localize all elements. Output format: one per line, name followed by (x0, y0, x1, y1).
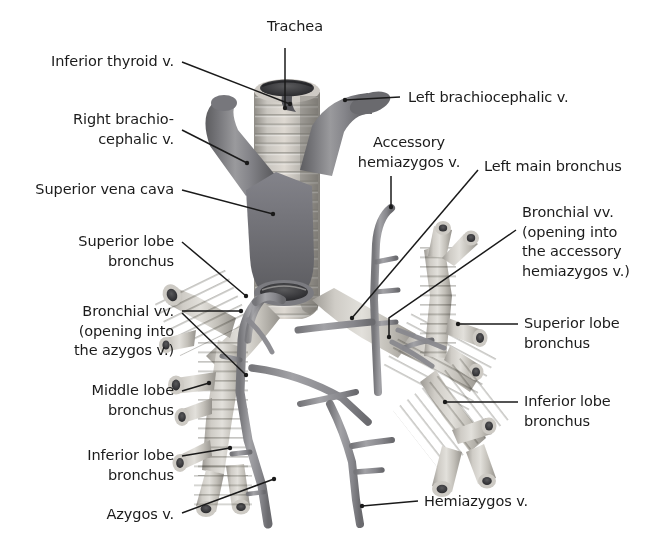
left-bronchial-tree (383, 221, 511, 497)
label-line: the accessory (522, 242, 664, 262)
label-line: Hemiazygos v. (424, 492, 564, 512)
leader-superior-vena-cava-endpoint (271, 212, 275, 216)
leader-right-brachiocephalic-vein-endpoint (245, 161, 249, 165)
label-bronchial-veins-accessory-hemiazygos: Bronchial vv.(opening intothe accessoryh… (522, 203, 664, 281)
label-line: Superior vena cava (14, 180, 174, 200)
label-line: Left brachiocephalic v. (408, 88, 608, 108)
label-line: bronchus (22, 252, 174, 272)
label-line: Inferior lobe (524, 392, 664, 412)
leader-bronchial-vv-azygos-2-endpoint (244, 373, 248, 377)
anatomy-figure: TracheaInferior thyroid v.Left brachioce… (0, 0, 668, 552)
leader-superior-lobe-bronchus-left-endpoint (456, 322, 460, 326)
leader-superior-lobe-bronchus-right-endpoint (244, 294, 248, 298)
label-inferior-lobe-bronchus-left: Inferior lobebronchus (524, 392, 664, 431)
leader-left-main-bronchus-endpoint (350, 316, 354, 320)
label-line: Azygos v. (52, 505, 174, 525)
leader-hemiazygos-vein (362, 501, 418, 506)
leader-left-brachiocephalic-vein-endpoint (343, 98, 347, 102)
label-line: cephalic v. (36, 130, 174, 150)
label-line: Superior lobe (22, 232, 174, 252)
leader-inferior-lobe-bronchus-right-endpoint (228, 446, 232, 450)
label-line: the azygos v.) (22, 341, 174, 361)
label-accessory-hemiazygos-vein: Accessoryhemiazygos v. (344, 133, 474, 172)
label-line: bronchus (22, 401, 174, 421)
label-line: bronchus (524, 412, 664, 432)
label-line: (opening into (22, 322, 174, 342)
leader-hemiazygos-vein-endpoint (360, 504, 364, 508)
label-line: bronchus (22, 466, 174, 486)
label-line: (opening into (522, 223, 664, 243)
label-superior-lobe-bronchus-right: Superior lobebronchus (22, 232, 174, 271)
label-azygos-vein: Azygos v. (52, 505, 174, 525)
label-line: Superior lobe (524, 314, 664, 334)
label-line: Right brachio- (36, 110, 174, 130)
label-inferior-lobe-bronchus-right: Inferior lobebronchus (22, 446, 174, 485)
label-line: Inferior thyroid v. (14, 52, 174, 72)
label-line: Middle lobe (22, 381, 174, 401)
label-superior-vena-cava: Superior vena cava (14, 180, 174, 200)
leader-azygos-vein-endpoint (272, 477, 276, 481)
label-line: Left main bronchus (484, 157, 654, 177)
label-line: hemiazygos v.) (522, 262, 664, 282)
label-line: hemiazygos v. (344, 153, 474, 173)
label-line: Accessory (344, 133, 474, 153)
leader-inferior-lobe-bronchus-left-endpoint (443, 400, 447, 404)
leader-trachea-endpoint (283, 106, 287, 110)
label-right-brachiocephalic-vein: Right brachio-cephalic v. (36, 110, 174, 149)
label-hemiazygos-vein: Hemiazygos v. (424, 492, 564, 512)
label-left-main-bronchus: Left main bronchus (484, 157, 654, 177)
label-inferior-thyroid-vein: Inferior thyroid v. (14, 52, 174, 72)
label-superior-lobe-bronchus-left: Superior lobebronchus (524, 314, 664, 353)
label-bronchial-veins-azygos: Bronchial vv.(opening intothe azygos v.) (22, 302, 174, 361)
label-line: Bronchial vv. (522, 203, 664, 223)
leader-inferior-thyroid-vein-endpoint (288, 102, 292, 106)
label-trachea: Trachea (247, 17, 343, 37)
leader-bronchial-vv-azygos-endpoint (239, 309, 243, 313)
label-line: bronchus (524, 334, 664, 354)
label-line: Trachea (247, 17, 343, 37)
label-line: Bronchial vv. (22, 302, 174, 322)
leader-bronchial-vv-accessory-endpoint (387, 335, 391, 339)
leader-middle-lobe-bronchus-endpoint (207, 381, 211, 385)
label-line: Inferior lobe (22, 446, 174, 466)
label-left-brachiocephalic-vein: Left brachiocephalic v. (408, 88, 608, 108)
label-middle-lobe-bronchus: Middle lobebronchus (22, 381, 174, 420)
leader-accessory-hemiazygos-vein-endpoint (389, 205, 393, 209)
